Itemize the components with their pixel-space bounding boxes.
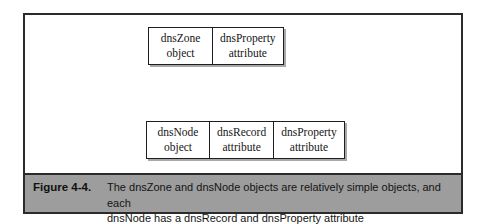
cell-kind: attribute [217,140,266,155]
figure-caption-band: Figure 4-4. The dnsZone and dnsNode obje… [25,173,461,212]
cell-name: dnsZone [156,31,205,46]
cell-dnsproperty-attribute: dnsProperty attribute [273,122,344,158]
figure-frame: dnsZone object dnsProperty attribute dns… [23,13,463,214]
cell-dnszone-object: dnsZone object [149,28,212,64]
figure-number-label: Figure 4-4. [25,180,107,196]
caption-line-2: dnsNode has a dnsRecord and dnsProperty … [107,211,447,221]
figure-caption-text: The dnsZone and dnsNode objects are rela… [107,180,461,221]
caption-line-1: The dnsZone and dnsNode objects are rela… [107,180,447,211]
diagram-area: dnsZone object dnsProperty attribute dns… [25,15,461,173]
cell-kind: object [156,46,205,61]
cell-dnsnode-object: dnsNode object [147,122,209,158]
cell-kind: attribute [220,46,276,61]
cell-dnsproperty-attribute: dnsProperty attribute [212,28,283,64]
cell-name: dnsProperty [220,31,276,46]
cell-kind: attribute [281,140,337,155]
cell-name: dnsRecord [217,125,266,140]
dnszone-object-row: dnsZone object dnsProperty attribute [148,27,284,65]
cell-name: dnsNode [154,125,202,140]
dnsnode-object-row: dnsNode object dnsRecord attribute dnsPr… [146,121,345,159]
cell-name: dnsProperty [281,125,337,140]
cell-kind: object [154,140,202,155]
cell-dnsrecord-attribute: dnsRecord attribute [209,122,273,158]
